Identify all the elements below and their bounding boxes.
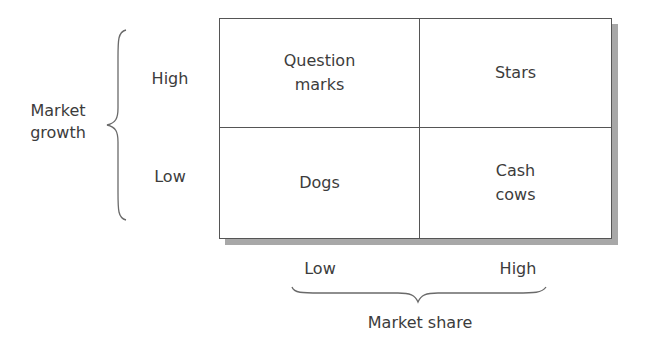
quadrant-dogs-label: Dogs <box>299 171 340 195</box>
y-axis-label: Market growth <box>18 100 98 144</box>
y-axis-brace-icon <box>100 28 130 222</box>
quadrant-dogs: Dogs <box>220 128 419 238</box>
quadrant-question-marks-label: Question marks <box>284 49 356 97</box>
y-axis-high-label: High <box>145 68 195 90</box>
bcg-matrix: Question marks Stars Dogs Cash cows <box>219 18 612 239</box>
x-axis-high-label: High <box>488 258 548 280</box>
x-axis-label: Market share <box>340 312 500 334</box>
quadrant-cash-cows: Cash cows <box>420 128 611 238</box>
quadrant-stars-label: Stars <box>495 61 536 85</box>
x-axis-brace-icon <box>290 285 550 305</box>
quadrant-question-marks: Question marks <box>220 19 419 127</box>
quadrant-stars: Stars <box>420 19 611 127</box>
y-axis-low-label: Low <box>145 166 195 188</box>
x-axis-low-label: Low <box>290 258 350 280</box>
quadrant-cash-cows-label: Cash cows <box>495 159 535 207</box>
